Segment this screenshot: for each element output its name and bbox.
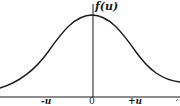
x-tick-zero: 0 bbox=[89, 97, 95, 106]
axis-end-mark bbox=[176, 99, 178, 101]
x-tick-negative-u: -u bbox=[41, 97, 51, 106]
bell-curve-figure bbox=[0, 0, 180, 106]
x-tick-positive-u: +u bbox=[128, 97, 142, 106]
y-axis-label: f(u) bbox=[95, 1, 118, 12]
bell-curve bbox=[0, 15, 180, 88]
